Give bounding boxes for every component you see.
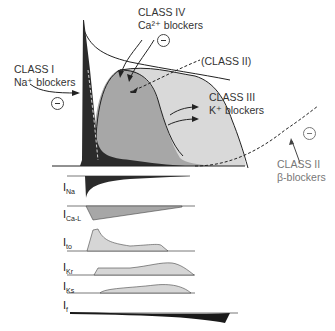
class4-inhibit-icon (157, 34, 170, 47)
class3-subtitle: K⁺ blockers (209, 104, 264, 116)
ito-trace (87, 229, 168, 251)
current-label-ito: Ito (63, 236, 72, 250)
class1-title: CLASS I (14, 63, 54, 75)
class2-title: CLASS II (277, 158, 320, 170)
ikr-trace (94, 263, 194, 275)
class1-subtitle: Na⁺ blockers (14, 76, 75, 88)
current-label-ikr: IKr (63, 261, 73, 275)
antiarrhythmic-diagram: CLASS I Na⁺ blockers CLASS IV Ca²⁺ block… (0, 0, 335, 331)
class2-subtitle: β-blockers (277, 171, 326, 183)
if-trace (70, 312, 230, 323)
class3-title: CLASS III (209, 91, 255, 103)
current-label-ina: INa (63, 181, 75, 195)
ical-trace (86, 206, 182, 220)
class1-inhibit-icon (51, 97, 64, 110)
class4-title: CLASS IV (138, 6, 185, 18)
class4-subtitle: Ca²⁺ blockers (138, 19, 203, 31)
class2-paren-label: (CLASS II) (201, 55, 251, 67)
ina-trace (85, 176, 190, 198)
iks-trace (100, 285, 191, 293)
current-label-iks: IKs (63, 280, 74, 294)
class2-inhibit-icon (303, 127, 316, 140)
current-label-ical: ICa-L (63, 208, 81, 222)
current-label-if: If (63, 299, 68, 313)
